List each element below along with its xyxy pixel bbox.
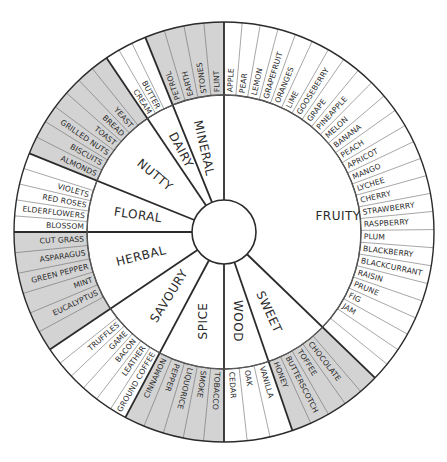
flavour-label: FLINT <box>212 70 222 92</box>
category-label-fruity: FRUITY <box>315 209 360 223</box>
flavour-label: CEDAR <box>227 372 238 400</box>
flavour-label: BLOSSOM <box>46 221 84 231</box>
category-label-wood: WOOD <box>231 300 245 342</box>
flavour-label: PLUM <box>364 232 385 242</box>
category-label-spice: SPICE <box>196 303 210 340</box>
aroma-wheel: APPLEPEARLEMONGRAPEFRUITORANGESLIMEGOOSE… <box>0 0 447 462</box>
flavour-label: TOBACCO <box>211 371 222 411</box>
flavour-label: APPLE <box>226 68 236 92</box>
center-hub <box>192 200 256 264</box>
